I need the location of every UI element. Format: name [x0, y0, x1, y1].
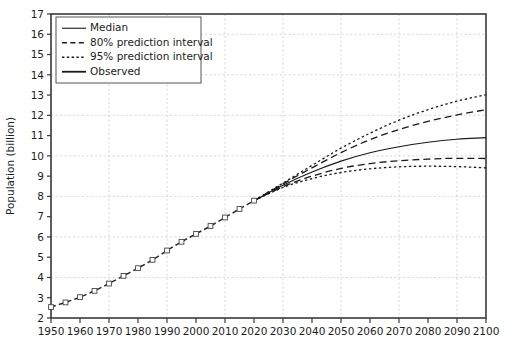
- y-tick-label: 15: [31, 48, 44, 60]
- y-axis-label: Population (billion): [4, 117, 16, 215]
- y-tick-label: 7: [37, 210, 44, 222]
- data-series: [51, 95, 486, 307]
- data-point-marker: [136, 266, 141, 271]
- x-tick-label: 2020: [241, 325, 268, 337]
- y-tick-label: 2: [37, 312, 44, 324]
- data-point-marker: [150, 257, 155, 262]
- y-tick-label: 11: [31, 129, 44, 141]
- x-tick-label: 2010: [212, 325, 239, 337]
- y-axis-tick-labels: 171615141312111098765432: [31, 8, 45, 324]
- data-point-marker: [237, 207, 242, 212]
- chart-legend: Median80% prediction interval95% predict…: [56, 17, 213, 83]
- y-tick-label: 5: [37, 251, 44, 263]
- x-tick-label: 1980: [125, 325, 152, 337]
- data-point-marker: [49, 305, 54, 310]
- y-tick-label: 10: [31, 150, 44, 162]
- x-tick-label: 1970: [96, 325, 123, 337]
- data-point-marker: [78, 295, 83, 300]
- y-tick-label: 3: [37, 292, 44, 304]
- y-tick-label: 8: [37, 190, 44, 202]
- x-tick-label: 2080: [415, 325, 442, 337]
- data-point-marker: [165, 248, 170, 253]
- y-tick-label: 12: [31, 109, 44, 121]
- y-tick-label: 14: [31, 69, 45, 81]
- x-axis-tick-labels: 1950196019701980199020002010202020302040…: [38, 325, 500, 337]
- x-tick-label: 2030: [270, 325, 297, 337]
- y-tick-label: 17: [31, 8, 44, 20]
- legend-label: 95% prediction interval: [90, 50, 213, 62]
- legend-label: 80% prediction interval: [90, 36, 213, 48]
- series-line: [254, 166, 486, 200]
- data-point-marker: [121, 273, 126, 278]
- data-point-marker: [252, 198, 257, 203]
- x-tick-label: 2060: [357, 325, 384, 337]
- x-tick-label: 2050: [328, 325, 355, 337]
- y-tick-label: 6: [37, 231, 44, 243]
- y-tick-label: 9: [37, 170, 44, 182]
- x-tick-label: 2040: [299, 325, 326, 337]
- data-point-marker: [223, 215, 228, 220]
- chart-canvas: 171615141312111098765432 195019601970198…: [0, 0, 517, 351]
- x-tick-label: 1990: [154, 325, 181, 337]
- y-axis-title: Population (billion): [4, 117, 16, 215]
- x-tick-label: 2000: [183, 325, 210, 337]
- y-tick-label: 4: [37, 271, 44, 283]
- data-point-marker: [107, 281, 112, 286]
- y-tick-label: 16: [31, 28, 45, 40]
- data-point-marker: [208, 224, 213, 229]
- legend-label: Observed: [90, 65, 141, 77]
- data-point-marker: [63, 300, 68, 305]
- series-line: [254, 110, 486, 201]
- x-tick-label: 2070: [386, 325, 413, 337]
- data-point-marker: [179, 239, 184, 244]
- x-tick-label: 2100: [473, 325, 500, 337]
- x-tick-label: 2090: [444, 325, 471, 337]
- population-projection-figure: 171615141312111098765432 195019601970198…: [0, 0, 517, 351]
- y-tick-label: 13: [31, 89, 44, 101]
- x-tick-label: 1960: [67, 325, 94, 337]
- legend-label: Median: [90, 21, 128, 33]
- data-point-marker: [194, 231, 199, 236]
- x-tick-label: 1950: [38, 325, 65, 337]
- data-point-marker: [92, 288, 97, 293]
